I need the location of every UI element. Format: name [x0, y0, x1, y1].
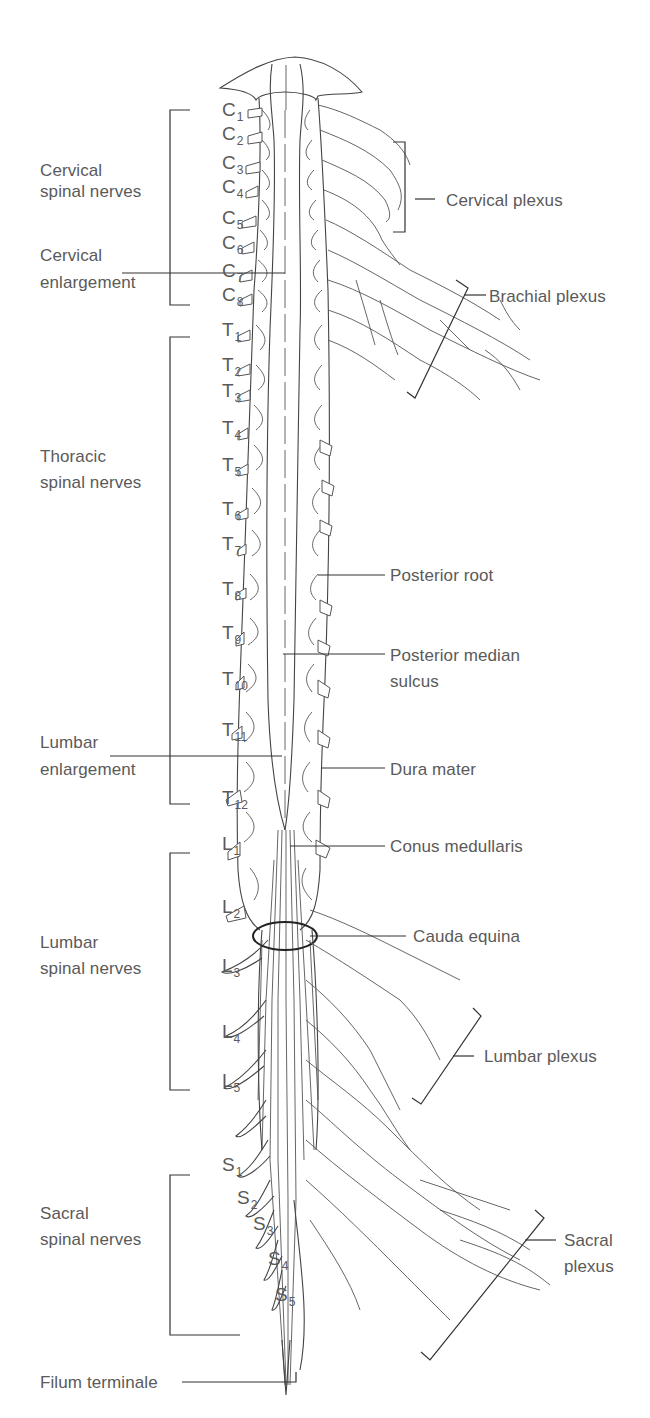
- segment-label-c6: C6: [222, 233, 243, 260]
- segment-label-c2: C2: [222, 124, 243, 151]
- segment-label-t1: T1: [222, 320, 241, 347]
- segment-label-c5: C5: [222, 208, 243, 235]
- segment-label-s5: S5: [275, 1285, 295, 1312]
- label-lumbar-plexus: Lumbar plexus: [484, 1046, 597, 1067]
- segment-label-t3: T3: [222, 381, 241, 408]
- segment-label-s2: S2: [237, 1188, 257, 1215]
- segment-label-t5: T5: [222, 455, 241, 482]
- segment-label-c4: C4: [222, 177, 243, 204]
- segment-label-t6: T6: [222, 499, 241, 526]
- segment-label-s1: S1: [222, 1155, 242, 1182]
- segment-label-t7: T7: [222, 534, 241, 561]
- label-lumbar-enlargement: Lumbar enlargement: [40, 732, 136, 780]
- label-sacral-spinal-nerves: Sacral spinal nerves: [40, 1203, 141, 1250]
- thoracic-bracket: [170, 337, 190, 804]
- root-stubs-right: [316, 440, 334, 858]
- segment-label-s4: S4: [268, 1249, 288, 1276]
- filum-terminale-tip: [282, 1340, 290, 1395]
- label-cervical-enlargement: Cervical enlargement: [40, 245, 136, 293]
- label-brachial-plexus: Brachial plexus: [489, 286, 606, 307]
- segment-label-l5: L5: [222, 1071, 240, 1098]
- segment-label-t2: T2: [222, 355, 241, 382]
- segment-label-t10: T10: [222, 669, 248, 696]
- brainstem-cap: [220, 57, 362, 100]
- label-posterior-median-sulcus: Posterior median sulcus: [390, 645, 520, 692]
- segment-label-t8: T8: [222, 579, 241, 606]
- sacral-plexus-bracket: [421, 1210, 544, 1360]
- label-sacral-plexus: Sacral plexus: [564, 1230, 614, 1277]
- label-filum-terminale: Filum terminale: [40, 1372, 158, 1393]
- segment-label-l1: L1: [222, 834, 240, 861]
- cord-left-edge: [267, 64, 285, 830]
- label-lumbar-spinal-nerves: Lumbar spinal nerves: [40, 932, 141, 979]
- segment-label-t12: T12: [222, 788, 248, 815]
- segment-label-l4: L4: [222, 1022, 240, 1049]
- segment-label-l3: L3: [222, 956, 240, 983]
- segment-label-t9: T9: [222, 623, 241, 650]
- label-thoracic-spinal-nerves: Thoracic spinal nerves: [40, 446, 141, 493]
- lumbar-bracket: [170, 853, 190, 1090]
- spinal-cord-diagram: Cervical spinal nerves Cervical enlargem…: [0, 0, 650, 1418]
- segment-label-s3: S3: [253, 1214, 273, 1241]
- label-conus-medullaris: Conus medullaris: [390, 836, 523, 857]
- segment-label-c8: C8: [222, 285, 243, 312]
- segment-label-l2: L2: [222, 897, 240, 924]
- posterior-roots: [244, 110, 322, 900]
- cervical-brachial-plexus-branches: [318, 105, 540, 400]
- cord-right-edge: [285, 64, 303, 830]
- label-cervical-spinal-nerves: Cervical spinal nerves: [40, 160, 141, 202]
- filum-terminale-leader: [182, 1372, 296, 1382]
- lumbar-sacral-plexus-branches: [306, 910, 550, 1320]
- cervical-bracket: [170, 110, 190, 305]
- segment-label-t11: T11: [222, 720, 247, 747]
- sacral-bracket: [170, 1175, 240, 1335]
- label-posterior-root: Posterior root: [390, 565, 493, 586]
- segment-label-t4: T4: [222, 418, 241, 445]
- label-dura-mater: Dura mater: [390, 759, 476, 780]
- label-cervical-plexus: Cervical plexus: [446, 190, 563, 211]
- cauda-equina-ring: [253, 922, 317, 950]
- label-cauda-equina: Cauda equina: [413, 926, 520, 947]
